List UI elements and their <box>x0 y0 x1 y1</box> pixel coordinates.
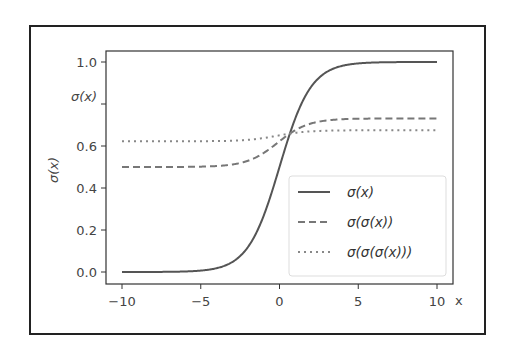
y-axis-ticks: 0.00.20.40.6σ(x)1.0 <box>71 55 106 280</box>
y-tick-label: 0.6 <box>76 139 97 154</box>
y-tick-label: 0.2 <box>76 223 97 238</box>
sigmoid-chart: 0.00.20.40.6σ(x)1.0 −10−50510 σ(x) x σ(x… <box>0 0 514 356</box>
y-tick-label: 1.0 <box>76 55 97 70</box>
y-tick-label: 0.4 <box>76 181 97 196</box>
x-tick-label: −10 <box>108 294 135 309</box>
y-tick-label: σ(x) <box>71 89 97 104</box>
x-axis-label: x <box>455 293 463 308</box>
y-tick-label: 0.0 <box>76 265 97 280</box>
legend: σ(x)σ(σ(x))σ(σ(σ(x))) <box>289 176 446 276</box>
x-tick-label: 5 <box>354 294 362 309</box>
x-tick-label: 10 <box>429 294 446 309</box>
curve-dotted <box>122 130 437 141</box>
legend-label: σ(σ(σ(x))) <box>347 244 412 260</box>
y-axis-label: σ(x) <box>46 157 61 183</box>
legend-label: σ(x) <box>347 184 374 200</box>
x-tick-label: 0 <box>275 294 283 309</box>
legend-label: σ(σ(x)) <box>347 214 393 230</box>
x-axis-ticks: −10−50510 <box>108 284 445 309</box>
curve-dashed <box>122 118 437 167</box>
x-tick-label: −5 <box>191 294 210 309</box>
